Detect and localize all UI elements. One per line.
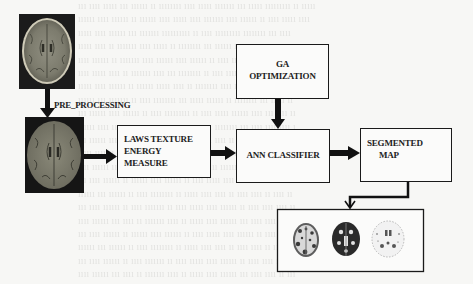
arrow-to-segmented [330, 146, 360, 160]
ann-classifier-box: ANN CLASSIFIER [236, 129, 330, 183]
laws-texture-energy-box: LAWS TEXTURE ENERGY MEASURE [117, 125, 211, 178]
gray-matter-map-image [332, 222, 360, 256]
preprocessed-mri-image [25, 117, 84, 193]
arrow-to-ann [211, 146, 236, 160]
ga-label-line1: GA [237, 58, 328, 71]
laws-label-line1: LAWS TEXTURE [124, 133, 193, 146]
arrow-preprocessing [40, 89, 55, 118]
csf-map-image [372, 221, 404, 257]
input-mri-image [19, 14, 75, 89]
preprocessing-label: PRE_PROCESSING [54, 99, 130, 112]
ga-label-line2: OPTIMIZATION [237, 70, 328, 83]
laws-label-line2: ENERGY [124, 145, 161, 158]
segmented-label-line2: MAP [379, 149, 399, 162]
ann-label: ANN CLASSIFIER [237, 149, 329, 162]
arrow-to-laws [84, 149, 117, 164]
arrow-ga-to-ann [271, 99, 285, 129]
results-box [278, 210, 424, 272]
connector-to-results [345, 182, 408, 208]
segmented-label-line1: SEGMENTED [367, 137, 423, 150]
laws-label-line3: MEASURE [124, 157, 168, 170]
segmented-map-box: SEGMENTED MAP [360, 128, 452, 182]
ga-optimization-box: GA OPTIMIZATION [236, 44, 329, 99]
white-matter-map-image [293, 223, 319, 257]
